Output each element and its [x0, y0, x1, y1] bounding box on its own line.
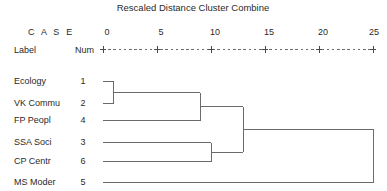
case-label-fp-peopl: FP Peopl — [14, 115, 51, 125]
axis-tick-label-25: 25 — [369, 27, 379, 37]
axis-tick-label-10: 10 — [210, 27, 220, 37]
case-label-ssa-soci: SSA Soci — [14, 137, 52, 147]
num-column-header: Num — [75, 45, 94, 55]
case-num-ecology: 1 — [80, 76, 85, 86]
case-num-fp-peopl: 4 — [80, 115, 85, 125]
label-column-header: Label — [14, 45, 36, 55]
case-label-ecology: Ecology — [14, 76, 47, 86]
case-num-ssa-soci: 3 — [80, 137, 85, 147]
case-header-label: C A S E — [28, 27, 74, 37]
case-label-cp-centr: CP Centr — [14, 156, 51, 166]
case-label-ms-moder: MS Moder — [14, 177, 56, 187]
axis-tick-label-15: 15 — [264, 27, 274, 37]
dendrogram-figure: Rescaled Distance Cluster Combine C A S … — [0, 0, 387, 191]
case-label-vk-commu: VK Commu — [14, 98, 60, 108]
axis-tick-label-5: 5 — [158, 27, 163, 37]
case-num-ms-moder: 5 — [80, 177, 85, 187]
case-num-vk-commu: 2 — [80, 98, 85, 108]
axis-rule — [100, 46, 376, 53]
chart-title: Rescaled Distance Cluster Combine — [117, 2, 270, 13]
case-num-cp-centr: 6 — [80, 156, 85, 166]
axis-tick-label-20: 20 — [318, 27, 328, 37]
dendrogram-tree — [103, 82, 373, 183]
axis-tick-label-0: 0 — [104, 27, 109, 37]
